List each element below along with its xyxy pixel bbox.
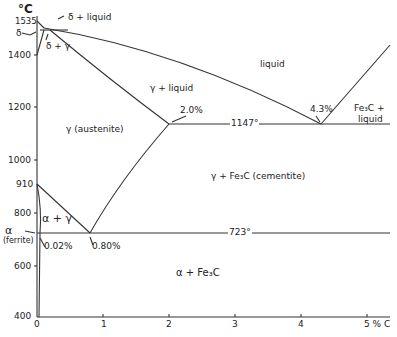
label-gamma-cementite: γ + Fe₃C (cementite): [211, 172, 305, 181]
label-austenite: γ (austenite): [66, 125, 123, 134]
x-tick-2: 2: [166, 320, 172, 329]
delta-top: [37, 21, 44, 28]
label-1147: 1147°: [230, 119, 259, 128]
label-0-80-percent: 0.80%: [92, 242, 121, 251]
y-tick-1400: 1400: [8, 51, 31, 60]
x-tick-5: 5 % C: [364, 320, 390, 329]
label-fe3c-liquid-1: Fe₃C +: [354, 104, 385, 113]
label-gamma-liquid: γ + liquid: [150, 84, 193, 93]
y-tick-800: 800: [14, 209, 31, 218]
label-fe3c-liquid-2: liquid: [358, 115, 383, 124]
delta-gamma-left: [37, 30, 44, 55]
x-tick-3: 3: [232, 320, 238, 329]
label-delta-gamma: δ + γ: [46, 42, 70, 51]
label-delta: δ: [16, 29, 22, 38]
label-0-02-percent: 0.02%: [44, 242, 73, 251]
x-tick-4: 4: [298, 320, 304, 329]
label-liquid: liquid: [260, 60, 285, 69]
y-tick-1535: 1535: [15, 17, 37, 26]
label-alpha: α: [5, 225, 12, 236]
acm-line: [90, 124, 169, 233]
label-723: 723°: [228, 228, 252, 237]
y-tick-400: 400: [14, 312, 31, 321]
label-alpha-gamma: α + γ: [42, 213, 72, 224]
label-delta-liquid: δ + liquid: [68, 13, 111, 22]
y-tick-910: 910: [16, 180, 33, 189]
x-tick-0: 0: [34, 320, 40, 329]
a3-line: [37, 184, 90, 233]
label-alpha-fe3c: α + Fe₃C: [176, 268, 220, 278]
x-tick-1: 1: [101, 320, 107, 329]
label-4-3-percent: 4.3%: [310, 105, 333, 114]
y-tick-1200: 1200: [8, 103, 31, 112]
y-tick-600: 600: [14, 262, 31, 271]
y-axis-unit: °C: [18, 3, 33, 15]
label-2-0-percent: 2.0%: [180, 106, 203, 115]
y-tick-1000: 1000: [8, 156, 31, 165]
label-ferrite: (ferrite): [3, 237, 34, 245]
